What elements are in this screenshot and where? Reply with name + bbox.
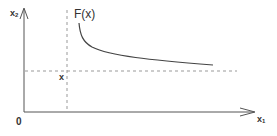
x-axis-label: x1: [257, 115, 265, 124]
y-axis-label: x2: [10, 9, 18, 18]
function-label: F(x): [74, 8, 95, 20]
diagram-canvas: [0, 0, 277, 136]
point-x-label: x: [59, 73, 64, 82]
function-curve: [79, 23, 213, 65]
origin-label: 0: [16, 117, 22, 127]
